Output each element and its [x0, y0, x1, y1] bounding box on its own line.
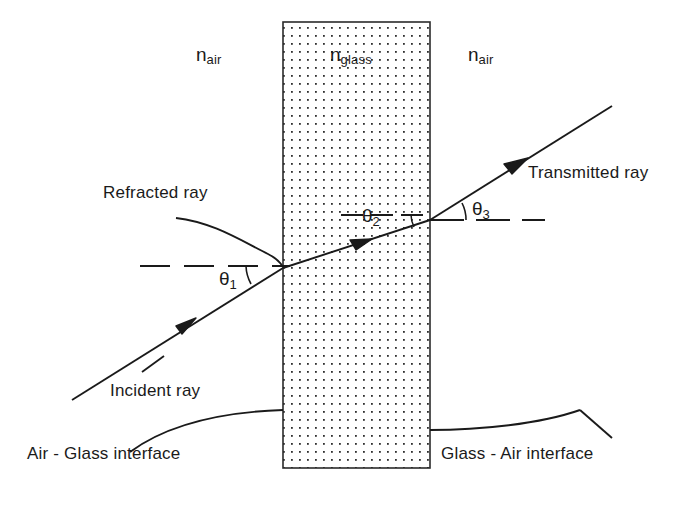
n-air-right-subscript: air — [479, 52, 494, 67]
n-air-right-label: nair — [468, 44, 494, 67]
theta1-subscript: 1 — [230, 277, 237, 292]
theta1-symbol: θ — [219, 268, 230, 289]
figure-canvas: nair nglass nair θ1 θ2 θ3 Refracted ray … — [0, 0, 692, 505]
theta3-subscript: 3 — [483, 207, 490, 222]
theta3-symbol: θ — [472, 198, 483, 219]
incident-ray-leader — [142, 356, 164, 372]
theta2-label: θ2 — [362, 205, 380, 229]
theta3-angle-arc — [462, 203, 466, 220]
n-glass-symbol: n — [330, 44, 341, 65]
incident-ray-label: Incident ray — [110, 381, 200, 401]
air-glass-interface-label: Air - Glass interface — [27, 444, 180, 464]
glass-air-interface-leader — [430, 410, 580, 430]
incident-ray-arrowhead — [176, 318, 196, 334]
theta3-label: θ3 — [472, 198, 490, 222]
theta1-angle-arc — [246, 266, 251, 284]
refracted-ray-leader — [176, 218, 283, 267]
n-glass-label: nglass — [330, 44, 372, 67]
n-air-left-label: nair — [196, 44, 222, 67]
refracted-ray-label: Refracted ray — [103, 183, 208, 203]
n-air-left-symbol: n — [196, 44, 207, 65]
theta1-label: θ1 — [219, 268, 237, 292]
theta2-subscript: 2 — [373, 214, 380, 229]
transmitted-ray-label: Transmitted ray — [528, 163, 648, 183]
n-air-left-subscript: air — [207, 52, 222, 67]
ray-diagram-svg — [0, 0, 692, 505]
n-air-right-symbol: n — [468, 44, 479, 65]
glass-air-interface-label: Glass - Air interface — [441, 444, 594, 464]
glass-air-interface-leader-tail — [580, 410, 612, 438]
n-glass-subscript: glass — [341, 52, 372, 67]
theta2-symbol: θ — [362, 205, 373, 226]
